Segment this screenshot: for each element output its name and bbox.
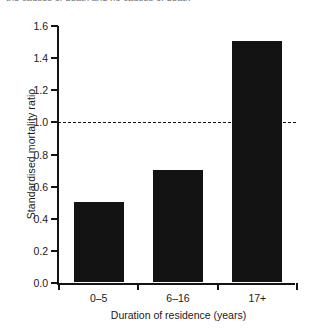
- x-tick-mark: [296, 283, 298, 290]
- bar-0–5: [74, 202, 124, 282]
- x-tick-mark: [58, 283, 60, 290]
- y-tick-mark: [51, 218, 58, 220]
- x-axis-title: Duration of residence (years): [57, 309, 300, 321]
- y-tick-mark: [51, 154, 58, 156]
- x-tick-label-6–16: 6–16: [166, 292, 189, 304]
- y-tick-label: 0.6: [33, 181, 48, 193]
- plot-area: 0.00.20.40.60.81.01.21.41.6 0–56–1617+: [57, 26, 297, 283]
- y-tick-mark: [51, 89, 58, 91]
- y-tick-mark: [51, 186, 58, 188]
- y-tick-label: 0.4: [33, 213, 48, 225]
- y-tick-mark: [51, 25, 58, 27]
- y-tick-label: 1.4: [33, 52, 48, 64]
- y-tick-mark: [51, 121, 58, 123]
- x-axis-line: [57, 283, 295, 285]
- bar-17+: [232, 41, 282, 282]
- y-tick-label: 1.2: [33, 84, 48, 96]
- y-tick-mark: [51, 250, 58, 252]
- y-tick-label: 0.2: [33, 245, 48, 257]
- bar-6–16: [153, 170, 203, 282]
- y-tick-label: 0.8: [33, 149, 48, 161]
- bar-chart-figure: Standardised mortality ratio 0.00.20.40.…: [0, 0, 317, 330]
- reference-line-1: [58, 122, 296, 123]
- x-tick-label-0–5: 0–5: [90, 292, 108, 304]
- y-tick-mark: [51, 57, 58, 59]
- x-tick-mark: [217, 283, 219, 290]
- y-tick-label: 0.0: [33, 277, 48, 289]
- y-tick-label: 1.6: [33, 20, 48, 32]
- y-tick-label: 1.0: [33, 116, 48, 128]
- y-tick-mark: [51, 282, 58, 284]
- x-tick-label-17+: 17+: [248, 292, 266, 304]
- x-tick-mark: [137, 283, 139, 290]
